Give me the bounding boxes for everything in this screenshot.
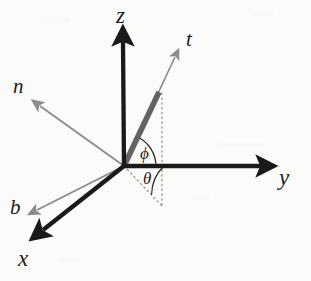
b-vector-label: b xyxy=(10,197,21,218)
coordinate-axes xyxy=(43,42,260,230)
y-axis-label: y xyxy=(279,166,289,189)
b-vector-line xyxy=(37,166,124,210)
t-vector-label: t xyxy=(186,29,192,50)
vector-diagram-figure: z y x t n b ϕ θ xyxy=(0,0,311,281)
n-vector-line xyxy=(40,106,124,166)
z-axis-line xyxy=(123,42,124,166)
n-vector-label: n xyxy=(13,76,24,97)
gray-vectors xyxy=(37,57,175,210)
theta-angle-label: θ xyxy=(143,170,151,187)
z-axis-label: z xyxy=(116,4,125,27)
x-axis-label: x xyxy=(18,247,28,270)
diagram-canvas xyxy=(0,0,311,281)
x-axis-line xyxy=(43,166,124,230)
phi-angle-label: ϕ xyxy=(140,145,149,162)
